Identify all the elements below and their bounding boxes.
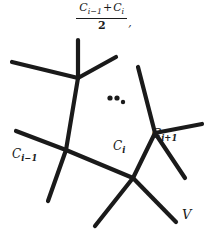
label-c-next-subscript: i+1: [161, 133, 177, 143]
label-c-next: Ci+1: [152, 128, 177, 143]
graph-drawing: [0, 0, 208, 234]
label-c-prev: Ci−1: [12, 148, 37, 163]
ellipsis-dot-1: [107, 95, 112, 100]
edge-mid-southwest: [95, 178, 133, 226]
label-c-prev-subscript: i−1: [21, 153, 37, 163]
label-vertex-v: V: [182, 208, 191, 221]
edge-mid-southeast: [133, 178, 176, 222]
edge-top-upper-right: [78, 57, 116, 78]
label-c-prev-base: C: [12, 147, 21, 161]
edge-left-southwest: [48, 150, 66, 201]
figure-canvas: Ci−1+Ci 2 , Ci−1 Ci Ci+1 V: [0, 0, 208, 234]
label-c-curr-base: C: [113, 139, 122, 153]
edge-right-north: [138, 67, 155, 133]
ellipsis-dot-3: [121, 100, 125, 104]
ellipsis-dot-2: [114, 95, 119, 100]
label-c-next-base: C: [152, 127, 161, 141]
label-c-curr-subscript: i: [122, 145, 125, 155]
edge-top-upper-left: [12, 62, 78, 78]
label-c-curr: Ci: [113, 140, 125, 155]
edge-top-left: [66, 78, 78, 150]
